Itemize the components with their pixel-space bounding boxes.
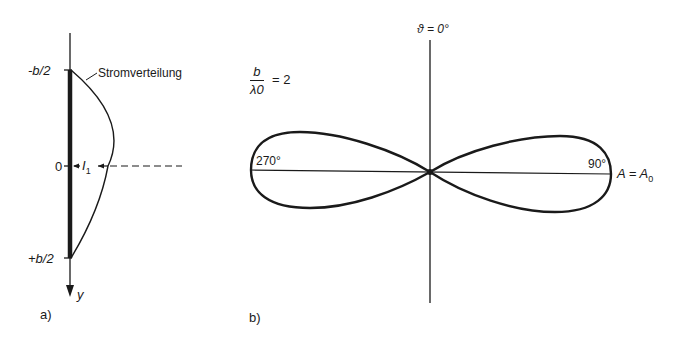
arrow-left-icon [98, 164, 104, 169]
label-270-degrees: 270° [256, 155, 281, 167]
leader-line [86, 73, 97, 80]
ratio-denominator: λ0 [250, 81, 264, 97]
ratio-fraction: b λ0 [250, 64, 264, 97]
caption-b: b) [249, 311, 261, 324]
caption-a: a) [40, 308, 52, 321]
y-axis-arrow-icon [66, 285, 74, 297]
label-y-axis: y [77, 288, 84, 301]
label-amplitude: A = A0 [617, 167, 653, 184]
panel-b-graphics [251, 40, 611, 303]
amplitude-symbol: A = A [617, 166, 648, 181]
current-distribution-curve [71, 70, 114, 258]
label-stromverteilung: Stromverteilung [98, 67, 182, 79]
current-subscript: 1 [86, 166, 91, 176]
origin-point [427, 169, 433, 175]
arrow-left-icon [73, 164, 79, 169]
label-90-degrees: 90° [588, 158, 606, 170]
label-theta-zero: ϑ = 0° [417, 23, 449, 35]
label-plus-b-half: +b/2 [28, 252, 54, 265]
label-zero: 0 [55, 160, 62, 173]
diagram-canvas [0, 0, 675, 350]
ratio-numerator: b [250, 64, 264, 81]
label-minus-b-half: -b/2 [28, 64, 50, 77]
amplitude-subscript: 0 [648, 174, 653, 184]
ratio-value: = 2 [272, 73, 290, 86]
label-current-i1: I1 [82, 159, 91, 176]
